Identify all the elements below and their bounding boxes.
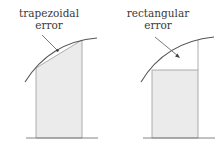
- rectangular-label-line1: rectangular: [127, 7, 190, 19]
- rectangle-area: [152, 70, 198, 138]
- rectangular-label-line2: error: [144, 19, 173, 31]
- arrow-left: [42, 35, 57, 50]
- arrow-right: [155, 37, 178, 56]
- trapezoidal-panel: trapezoidal error: [19, 7, 98, 138]
- trapezoidal-label-line1: trapezoidal: [19, 7, 80, 19]
- arrow-dot-left: [56, 49, 58, 51]
- trapezoid-area: [36, 40, 82, 138]
- rectangular-panel: rectangular error: [127, 7, 215, 138]
- trapezoidal-label-line2: error: [35, 19, 64, 31]
- integration-error-diagram: trapezoidal error rectangular error: [0, 0, 217, 150]
